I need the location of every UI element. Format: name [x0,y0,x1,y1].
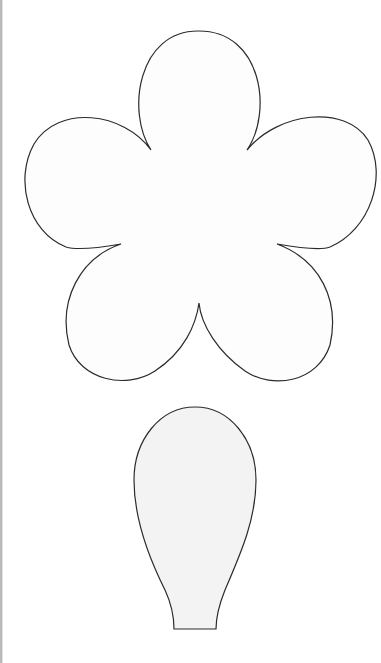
template-canvas [0,0,381,663]
flower-shape [25,31,376,381]
petal-shape [134,407,256,629]
